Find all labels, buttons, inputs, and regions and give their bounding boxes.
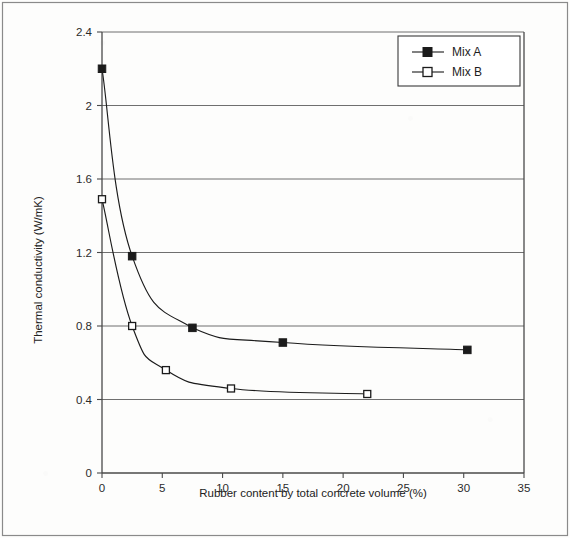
series-line	[102, 199, 367, 394]
x-tick-label: 0	[99, 482, 105, 494]
series-mix-b	[99, 196, 371, 398]
y-tick-label: 1.6	[76, 173, 92, 185]
data-point-filled-square	[279, 339, 287, 347]
y-tick-label: 0.4	[76, 394, 93, 406]
series-line	[102, 69, 467, 350]
y-tick-label: 0	[86, 467, 92, 479]
figure-canvas: 05101520253035 00.40.81.21.622.4 Rubber …	[0, 0, 570, 538]
data-point-open-square	[228, 385, 235, 392]
thermal-conductivity-line-chart: 05101520253035 00.40.81.21.622.4 Rubber …	[0, 0, 570, 538]
x-tick-label: 35	[518, 482, 531, 494]
filled-square-icon	[423, 48, 432, 57]
legend: Mix A Mix B	[398, 36, 520, 86]
y-tick-label: 2.4	[76, 26, 93, 38]
data-point-filled-square	[128, 252, 136, 259]
y-axis-tick-labels: 00.40.81.21.622.4	[76, 26, 93, 479]
series-mix-a	[98, 65, 471, 354]
x-tick-label: 5	[159, 482, 165, 494]
x-axis-title: Rubber content by total concrete volume …	[199, 487, 427, 499]
data-point-open-square	[99, 196, 106, 203]
data-point-open-square	[129, 323, 136, 330]
data-point-filled-square	[189, 324, 197, 332]
legend-label-mix-b: Mix B	[452, 65, 482, 79]
data-point-open-square	[364, 390, 371, 397]
y-tick-label: 0.8	[76, 320, 92, 332]
data-point-filled-square	[464, 346, 472, 354]
axis-ticks	[97, 32, 524, 478]
y-axis-title: Thermal conductivity (W/mK)	[32, 196, 44, 344]
open-square-icon	[423, 68, 432, 77]
y-tick-label: 2	[86, 100, 92, 112]
data-point-open-square	[162, 367, 169, 374]
data-point-filled-square	[98, 65, 106, 73]
legend-label-mix-a: Mix A	[452, 45, 481, 59]
x-tick-label: 30	[457, 482, 470, 494]
y-tick-label: 1.2	[76, 247, 92, 259]
